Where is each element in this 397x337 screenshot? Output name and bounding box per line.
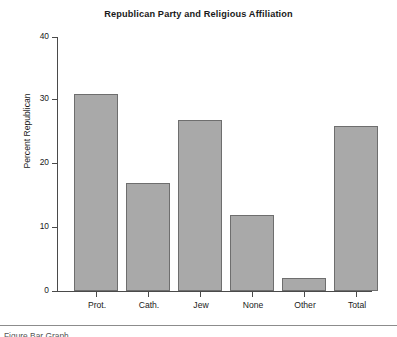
bar-cath bbox=[126, 183, 170, 291]
x-axis-line bbox=[57, 291, 372, 292]
y-axis-line bbox=[57, 37, 58, 292]
bar-other bbox=[282, 278, 326, 291]
y-axis-tick-label: 20 bbox=[40, 157, 49, 168]
x-axis-tick bbox=[200, 292, 201, 297]
bar-jew bbox=[178, 120, 222, 291]
x-axis-tick bbox=[96, 292, 97, 297]
y-axis-tick-label: 30 bbox=[40, 93, 49, 104]
y-axis-tick-label: 0 bbox=[44, 285, 49, 296]
y-axis-tick-label: 40 bbox=[40, 31, 49, 42]
x-axis-tick bbox=[148, 292, 149, 297]
footer-divider bbox=[0, 325, 397, 326]
bar-none bbox=[230, 215, 274, 291]
y-axis-tick: 40 bbox=[52, 37, 57, 38]
x-axis-tick bbox=[356, 292, 357, 297]
y-axis-title: Percent Republican bbox=[19, 0, 33, 262]
bar-chart-figure: Republican Party and Religious Affiliati… bbox=[0, 0, 397, 337]
y-axis-tick: 20 bbox=[52, 163, 57, 164]
y-axis-tick: 0 bbox=[52, 291, 57, 292]
x-axis-tick bbox=[304, 292, 305, 297]
footer-caption-fragment: Figure Bar Graph bbox=[4, 330, 204, 337]
x-axis-tick bbox=[252, 292, 253, 297]
y-axis-tick: 10 bbox=[52, 227, 57, 228]
plot-area: 0 10 20 30 40 Prot. Cath. Jew None Oth bbox=[57, 30, 372, 292]
bar-total bbox=[334, 126, 378, 291]
x-axis-tick-label-total: Total bbox=[326, 300, 388, 310]
bar-prot bbox=[74, 94, 118, 291]
y-axis-tick: 30 bbox=[52, 99, 57, 100]
y-axis-tick-label: 10 bbox=[40, 221, 49, 232]
y-axis-title-label: Percent Republican bbox=[21, 93, 31, 168]
chart-title: Republican Party and Religious Affiliati… bbox=[0, 9, 397, 19]
